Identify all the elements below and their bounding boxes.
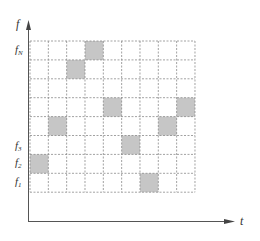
time-axis-arrow-icon [224,219,235,224]
shaded-cell [30,154,48,173]
row-label: f2 [15,156,22,170]
shaded-cell [48,117,66,136]
row-labels: fNf3f2f1 [15,43,23,189]
row-label: f3 [15,139,22,153]
shaded-cell [140,173,158,192]
shaded-cell [122,136,140,155]
frequency-axis-label: f [16,17,21,31]
frequency-hopping-diagram: f t fNf3f2f1 [0,0,260,241]
shaded-cell [103,98,121,117]
shaded-cell [158,117,176,136]
grid-lines [30,41,195,192]
shaded-cell [177,98,195,117]
shaded-cell [85,41,103,60]
time-axis-label: t [240,214,244,228]
frequency-axis-arrow-icon [26,20,31,30]
shaded-cell [67,60,85,79]
row-label: f1 [15,175,22,189]
row-label: fN [15,43,23,57]
